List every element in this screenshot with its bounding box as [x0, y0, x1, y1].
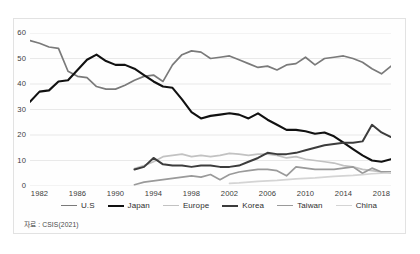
legend-item-korea[interactable]: Korea: [222, 201, 264, 210]
x-tick-label: 2014: [327, 189, 361, 198]
y-tick-label: 20: [6, 130, 26, 139]
legend-item-taiwan[interactable]: Taiwan: [277, 201, 323, 210]
x-tick-label: 2010: [289, 189, 323, 198]
legend-swatch-icon: [277, 205, 293, 206]
y-tick-label: 50: [6, 54, 26, 63]
legend-swatch-icon: [108, 205, 124, 207]
legend-swatch-icon: [336, 205, 352, 206]
chart-card: 0102030405060 19821986199019941998200220…: [13, 18, 406, 234]
series-line-china: [230, 173, 392, 184]
series-line-us: [30, 41, 391, 89]
legend-swatch-icon: [222, 205, 238, 207]
legend-label: Europe: [183, 201, 209, 210]
y-tick-label: 40: [6, 79, 26, 88]
legend-item-europe[interactable]: Europe: [163, 201, 209, 210]
x-tick-label: 2018: [365, 189, 399, 198]
series-line-korea: [135, 125, 392, 170]
x-tick-label: 1990: [99, 189, 133, 198]
x-tick-label: 1986: [61, 189, 95, 198]
legend-item-china[interactable]: China: [336, 201, 377, 210]
line-chart-svg: [30, 33, 391, 186]
y-tick-label: 60: [6, 28, 26, 37]
legend-label: U.S: [81, 201, 95, 210]
series-line-japan: [30, 55, 391, 162]
x-tick-label: 1982: [23, 189, 57, 198]
legend-label: Japan: [128, 201, 150, 210]
legend-label: China: [356, 201, 377, 210]
source-note: 자료 : CSIS(2021): [24, 219, 79, 229]
x-tick-label: 2002: [213, 189, 247, 198]
x-tick-label: 1994: [137, 189, 171, 198]
y-tick-label: 30: [6, 105, 26, 114]
legend-label: Taiwan: [297, 201, 323, 210]
y-tick-label: 10: [6, 156, 26, 165]
legend-swatch-icon: [61, 205, 77, 206]
x-tick-label: 1998: [175, 189, 209, 198]
chart-legend: U.SJapanEuropeKoreaTaiwanChina: [30, 201, 408, 210]
x-tick-label: 2006: [251, 189, 285, 198]
legend-swatch-icon: [163, 205, 179, 206]
legend-item-japan[interactable]: Japan: [108, 201, 150, 210]
legend-label: Korea: [242, 201, 264, 210]
chart-plot-area: [30, 33, 391, 186]
legend-item-us[interactable]: U.S: [61, 201, 95, 210]
